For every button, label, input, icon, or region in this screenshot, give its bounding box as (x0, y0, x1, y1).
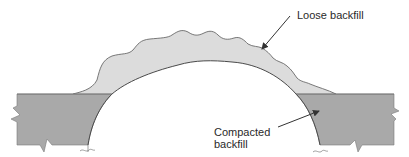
compacted-backfill-label-line1: Compacted (214, 126, 270, 138)
compacted-backfill-label-line2: backfill (214, 138, 270, 150)
loose-backfill-label: Loose backfill (297, 9, 364, 21)
arch-backfill-diagram (0, 0, 409, 157)
left-compacted-backfill (11, 94, 112, 152)
loose-backfill-region (73, 31, 336, 94)
left-foot-break-mark (80, 149, 95, 151)
loose-backfill-arrow (262, 16, 290, 49)
right-foot-break-mark (313, 150, 328, 152)
right-compacted-backfill (296, 94, 399, 152)
compacted-backfill-label: Compacted backfill (214, 126, 270, 150)
